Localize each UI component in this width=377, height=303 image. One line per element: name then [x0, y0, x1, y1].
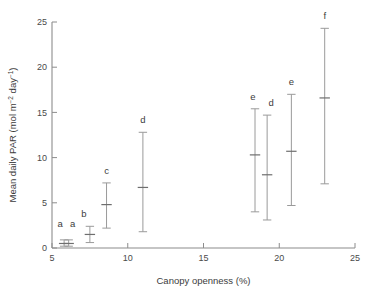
- axes-group: 0510152025510152025: [37, 17, 360, 263]
- x-tick-label-20: 20: [274, 253, 284, 263]
- data-point-5-d: d: [138, 114, 148, 231]
- data-point-3-b: b: [81, 208, 95, 242]
- data-point-1-a: a: [57, 218, 69, 246]
- group-label-e: e: [289, 76, 294, 87]
- group-label-a: a: [70, 218, 76, 229]
- group-label-d: d: [140, 114, 145, 125]
- group-label-a: a: [57, 218, 63, 229]
- data-point-8-e: e: [286, 76, 296, 205]
- par-vs-canopy-openness-scatter-chart: 0510152025510152025 aabcdedef Canopy ope…: [0, 0, 377, 303]
- y-axis-title: Mean daily PAR (mol m−2 day−1): [7, 67, 18, 202]
- y-tick-label-5: 5: [42, 198, 47, 208]
- x-tick-label-5: 5: [49, 253, 54, 263]
- y-tick-label-0: 0: [42, 243, 47, 253]
- data-point-7-d: d: [262, 97, 274, 220]
- x-axis-title: Canopy openness (%): [157, 275, 251, 286]
- data-point-9-f: f: [320, 10, 330, 183]
- x-tick-label-15: 15: [198, 253, 208, 263]
- y-tick-label-20: 20: [37, 62, 47, 72]
- group-label-f: f: [323, 10, 326, 21]
- y-tick-label-25: 25: [37, 17, 47, 27]
- y-tick-label-15: 15: [37, 108, 47, 118]
- x-tick-label-25: 25: [350, 253, 360, 263]
- data-point-6-e: e: [250, 91, 260, 212]
- data-series-group: aabcdedef: [57, 10, 329, 246]
- data-point-4-c: c: [101, 165, 111, 228]
- group-label-e: e: [250, 91, 255, 102]
- chart-figure: 0510152025510152025 aabcdedef Canopy ope…: [0, 0, 377, 303]
- group-label-d: d: [268, 97, 273, 108]
- x-tick-label-10: 10: [123, 253, 133, 263]
- y-tick-label-10: 10: [37, 153, 47, 163]
- group-label-c: c: [104, 165, 109, 176]
- data-point-2-a: a: [63, 218, 76, 246]
- group-label-b: b: [81, 208, 86, 219]
